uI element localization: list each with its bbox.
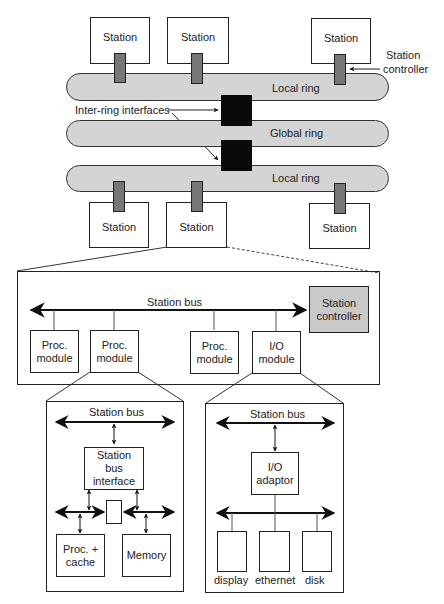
station-bus-label: Station bus [147,296,202,309]
station-bus-interface: Stationbusinterface [84,447,144,490]
memory: Memory [122,534,171,577]
io-module: I/Omodule [252,331,301,374]
station-controller-bottom-1 [113,181,125,212]
proc-detail-bus-label: Station bus [89,406,144,419]
device-ethernet-label: ethernet [255,574,295,587]
station-controller-box: Stationcontroller [309,286,369,333]
inter-ring-annotation: Inter-ring interfaces [75,104,170,117]
station-controller-top-2 [191,53,203,84]
inter-ring-interface-2 [221,140,252,171]
device-disk-label: disk [305,574,325,587]
device-display [217,531,247,572]
proc-module-2: Proc.module [90,330,139,373]
proc-module-3: Proc.module [190,331,239,374]
global-ring-label: Global ring [270,127,323,140]
station-controller-annotation-2: controller [383,63,428,76]
local-ring-top-label: Local ring [272,82,320,95]
local-ring-bottom-label: Local ring [272,172,320,185]
inter-ring-interface-1 [221,95,252,126]
station-controller-annotation-1: Station [386,49,420,62]
bus-switch [106,500,122,524]
station-controller-top-1 [114,53,126,83]
station-controller-bottom-3 [334,183,346,214]
station-controller-bottom-2 [191,181,203,212]
device-display-label: display [214,574,248,587]
device-disk [302,531,332,572]
io-detail-bus-label: Station bus [250,408,305,421]
proc-module-1: Proc.module [30,330,79,373]
proc-cache: Proc. +cache [56,534,105,577]
station-controller-top-3 [334,54,346,85]
io-adaptor: I/Oadaptor [251,452,299,495]
device-ethernet [259,531,290,572]
